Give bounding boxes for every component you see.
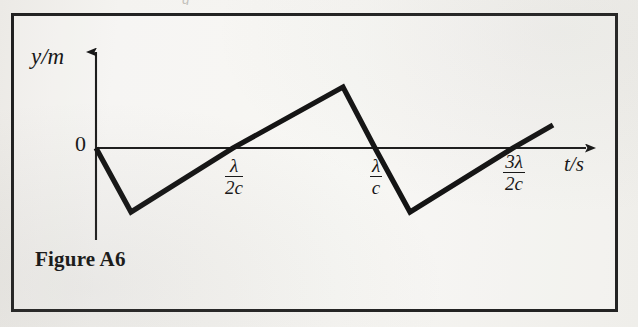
- x-tick-label-three-half-lambda-over-c: 3λ 2c: [493, 152, 535, 193]
- page-bleed-text-above: g: [182, 0, 222, 5]
- fraction-denominator: 2c: [503, 173, 525, 193]
- x-axis-label: t/s: [564, 152, 584, 177]
- fraction-numerator: 3λ: [503, 152, 525, 173]
- figure-caption: Figure A6: [35, 247, 126, 272]
- origin-label: 0: [75, 131, 86, 157]
- scanned-page-background: g y/m t/s 0 λ 2c λ c: [0, 0, 638, 327]
- fraction-denominator: 2c: [225, 177, 243, 197]
- fraction: 3λ 2c: [503, 152, 525, 193]
- fraction: λ 2c: [225, 156, 243, 197]
- x-tick-label-lambda-over-c: λ c: [359, 156, 393, 197]
- fraction-denominator: c: [370, 177, 382, 197]
- y-axis-label: y/m: [31, 44, 64, 70]
- fraction: λ c: [370, 156, 382, 197]
- fraction-numerator: λ: [370, 156, 382, 177]
- fraction-numerator: λ: [225, 156, 243, 177]
- x-tick-label-half-lambda-over-c: λ 2c: [217, 156, 251, 197]
